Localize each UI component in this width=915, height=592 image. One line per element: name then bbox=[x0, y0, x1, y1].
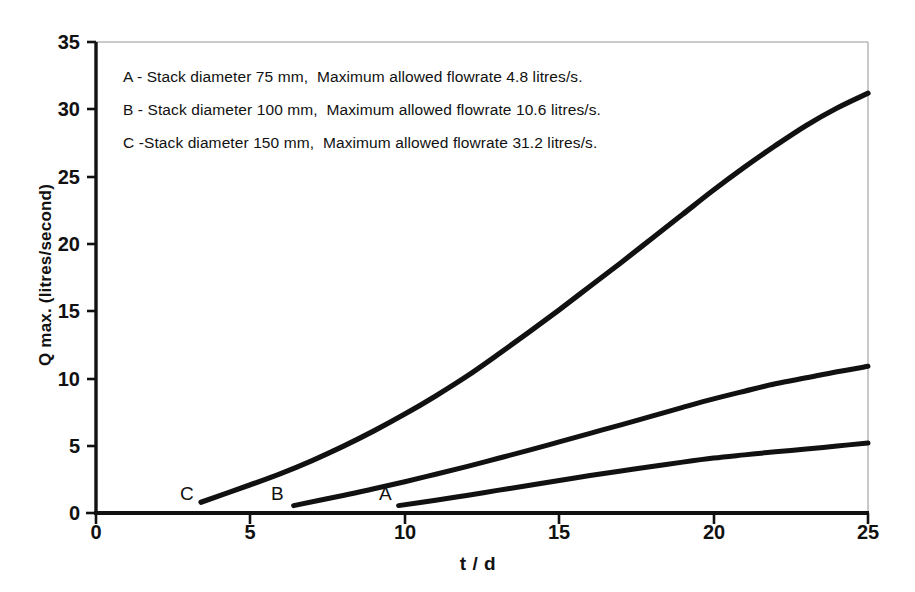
annotation-line-c: C -Stack diameter 150 mm, Maximum allowe… bbox=[123, 134, 597, 152]
x-tick-label-20: 20 bbox=[684, 521, 744, 544]
x-tick-label-10: 10 bbox=[375, 521, 435, 544]
chart-figure: A - Stack diameter 75 mm, Maximum allowe… bbox=[0, 0, 915, 592]
x-axis-title: t / d bbox=[418, 553, 538, 575]
y-tick-label-30: 30 bbox=[26, 98, 80, 121]
curve-label-c: C bbox=[180, 483, 194, 505]
x-tick-label-0: 0 bbox=[66, 521, 126, 544]
x-tick-label-25: 25 bbox=[838, 521, 898, 544]
x-tick-label-5: 5 bbox=[220, 521, 280, 544]
annotation-line-a: A - Stack diameter 75 mm, Maximum allowe… bbox=[123, 68, 583, 86]
plot-canvas bbox=[0, 0, 915, 592]
curve-label-b: B bbox=[271, 483, 284, 505]
x-tick-label-15: 15 bbox=[529, 521, 589, 544]
annotation-line-b: B - Stack diameter 100 mm, Maximum allow… bbox=[123, 101, 601, 119]
y-axis-title: Q max. (litres/second) bbox=[36, 145, 56, 405]
curve-c bbox=[201, 93, 868, 502]
y-tick-label-5: 5 bbox=[26, 435, 80, 458]
curve-label-a: A bbox=[379, 483, 392, 505]
curve-a bbox=[399, 443, 868, 506]
y-tick-label-35: 35 bbox=[26, 31, 80, 54]
